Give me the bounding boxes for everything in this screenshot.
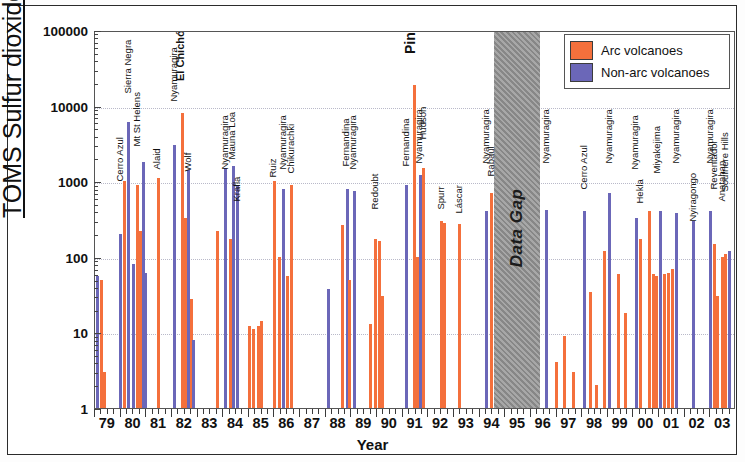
x-axis-tick	[145, 409, 146, 417]
legend-item-nonarc: Non-arc volcanoes	[570, 61, 724, 83]
x-axis-tick	[325, 409, 326, 417]
y-axis-minor-tick	[94, 386, 98, 387]
bar	[273, 181, 276, 408]
x-axis-minor-tick	[318, 409, 319, 414]
x-axis-minor-tick	[639, 409, 640, 414]
x-axis-minor-tick	[626, 409, 627, 414]
x-axis-tick-label: 02	[688, 415, 704, 431]
x-axis-minor-tick	[613, 409, 614, 414]
volcano-label: Spurr	[435, 186, 445, 209]
bar	[716, 296, 719, 408]
x-axis-minor-tick	[421, 409, 422, 414]
y-axis-minor-tick	[94, 275, 98, 276]
volcano-label: Cerro Azul	[578, 145, 588, 189]
x-axis-minor-tick	[267, 409, 268, 414]
bar	[123, 181, 126, 408]
y-axis-minor-tick	[94, 265, 98, 266]
y-axis-minor-tick	[94, 341, 98, 342]
x-axis-tick	[197, 409, 198, 417]
x-axis-minor-tick	[543, 409, 544, 414]
y-axis-minor-tick	[94, 270, 98, 271]
bar	[617, 274, 620, 408]
x-axis-tick	[402, 409, 403, 417]
figure-container: TOMS Sulfur dioxide (kt) 110100100010000…	[0, 0, 745, 462]
x-axis-tick-label: 84	[227, 415, 243, 431]
volcano-label: Chikurachki	[285, 124, 295, 174]
x-axis-tick	[273, 409, 274, 417]
bar	[692, 221, 695, 408]
x-axis-minor-tick	[344, 409, 345, 414]
x-axis-minor-tick	[466, 409, 467, 414]
volcano-label: Cerro Azul	[114, 137, 124, 181]
x-axis-tick	[607, 409, 608, 417]
x-axis-tick-label: 00	[637, 415, 653, 431]
y-axis-minor-tick	[94, 261, 98, 262]
volcano-label: Soufriere Hills	[720, 132, 730, 191]
x-axis-tick-label: 80	[124, 415, 140, 431]
x-axis-minor-tick	[568, 409, 569, 414]
volcano-label: Fernandina	[400, 118, 410, 166]
x-axis-minor-tick	[158, 409, 159, 414]
x-axis-minor-tick	[664, 409, 665, 414]
bar	[659, 211, 662, 408]
volcano-label: Nyamuragira	[348, 115, 358, 169]
data-gap-label: Data Gap	[507, 188, 527, 267]
x-axis-minor-tick	[722, 409, 723, 414]
bar	[353, 191, 356, 408]
y-axis-minor-tick	[94, 337, 98, 338]
y-axis-minor-tick	[94, 205, 98, 206]
x-axis-tick-label: 87	[304, 415, 320, 431]
y-axis-tick	[94, 333, 101, 334]
bar	[545, 210, 548, 408]
legend: Arc volcanoes Non-arc volcanoes	[564, 34, 730, 89]
bar	[232, 166, 235, 408]
x-axis-minor-tick	[382, 409, 383, 414]
x-axis-minor-tick	[729, 409, 730, 414]
x-axis-tick	[453, 409, 454, 417]
y-axis-minor-tick	[94, 118, 98, 119]
x-axis-title: Year	[0, 436, 745, 453]
x-axis-minor-tick	[511, 409, 512, 414]
x-axis-tick	[427, 409, 428, 417]
bar	[257, 326, 260, 408]
volcano-label: Wolf	[182, 153, 192, 172]
y-axis-minor-tick	[94, 48, 98, 49]
legend-swatch-arc-icon	[570, 41, 593, 60]
x-axis-tick	[350, 409, 351, 417]
x-axis-minor-tick	[395, 409, 396, 414]
bar	[282, 189, 285, 408]
bar	[490, 193, 493, 408]
y-axis-minor-tick	[94, 199, 98, 200]
x-axis-tick	[581, 409, 582, 417]
bar	[103, 372, 106, 408]
x-axis-minor-tick	[261, 409, 262, 414]
y-axis-minor-tick	[94, 159, 98, 160]
volcano-label: Rabaul	[485, 146, 495, 176]
y-axis-tick-label: 1000	[58, 175, 88, 190]
y-axis-minor-tick	[94, 54, 98, 55]
x-axis-minor-tick	[562, 409, 563, 414]
x-axis-tick	[709, 409, 710, 417]
x-axis-minor-tick	[447, 409, 448, 414]
x-axis-tick	[376, 409, 377, 417]
y-axis-minor-tick	[94, 114, 98, 115]
legend-label-arc: Arc volcanoes	[601, 43, 683, 58]
x-axis-tick	[299, 409, 300, 417]
bar	[663, 274, 666, 408]
x-axis-minor-tick	[312, 409, 313, 414]
bar	[224, 168, 227, 408]
x-axis-tick	[94, 409, 95, 417]
volcano-label: Mt St Helens	[131, 92, 141, 146]
volcano-label: Nyamuragira	[630, 115, 640, 169]
x-axis-minor-tick	[472, 409, 473, 414]
bar	[144, 273, 147, 409]
x-axis-tick	[530, 409, 531, 417]
y-axis-minor-tick	[94, 34, 98, 35]
volcano-label: Mauna Loa	[227, 112, 237, 160]
legend-item-arc: Arc volcanoes	[570, 39, 724, 61]
x-axis-tick-label: 98	[586, 415, 602, 431]
x-axis-tick	[120, 409, 121, 417]
x-axis-minor-tick	[677, 409, 678, 414]
bar	[341, 225, 344, 408]
bar	[709, 211, 712, 408]
